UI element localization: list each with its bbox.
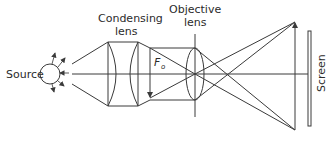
ray-bottom-to-image-top xyxy=(195,22,295,100)
objective-lens xyxy=(186,34,204,117)
ray-center-to-image-top xyxy=(195,22,295,74)
screen xyxy=(308,31,311,126)
condensing-lens-label-line1: Condensing xyxy=(98,12,163,25)
ray-source-top xyxy=(72,42,108,64)
ray-center-to-image-bottom xyxy=(195,74,295,130)
object-label-subscript: o xyxy=(161,63,165,71)
ray-source-bottom xyxy=(72,84,108,106)
optical-projection-diagram: Source Condensing lens F o Objective len… xyxy=(0,0,329,141)
object-label: F xyxy=(154,56,161,69)
ray-condenser-bottom-converge xyxy=(138,100,150,106)
objective-lens-label-line2: lens xyxy=(184,16,207,29)
ray-object-bottom-to-center xyxy=(150,74,195,98)
radiation-arrow xyxy=(58,58,65,67)
radiation-arrow xyxy=(52,53,55,64)
radiation-arrow xyxy=(58,81,64,86)
ray-condenser-top-converge xyxy=(138,42,150,48)
ray-top-to-image-bottom xyxy=(195,48,295,130)
source-label: Source xyxy=(6,68,44,81)
objective-lens-label-line1: Objective xyxy=(169,3,221,16)
source-radiation-arrows xyxy=(52,53,69,92)
condensing-lens-label-line2: lens xyxy=(115,25,138,38)
radiation-arrow xyxy=(52,84,54,92)
screen-label: Screen xyxy=(315,54,328,92)
